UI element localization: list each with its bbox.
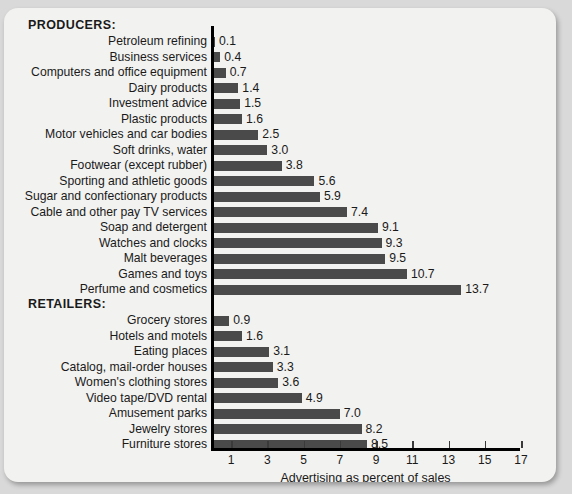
x-axis-tick (304, 441, 306, 448)
bar-value-label: 7.4 (351, 205, 368, 221)
bar-value-label: 9.1 (382, 220, 399, 236)
bar-value-label: 3.3 (277, 360, 294, 376)
bar (213, 269, 407, 279)
bar-value-label: 8.2 (366, 422, 383, 438)
bar-value-label: 7.0 (344, 406, 361, 422)
bar-row-label: Investment advice (109, 96, 207, 112)
bar-row-label: Perfume and cosmetics (80, 282, 207, 298)
x-axis-tick-label: 9 (373, 453, 380, 467)
bar-row-label: Plastic products (121, 112, 207, 128)
bar (213, 254, 385, 264)
bar-row-label: Video tape/DVD rental (86, 391, 207, 407)
bar-value-label: 13.7 (465, 282, 489, 298)
bar-row-label: Footwear (except rubber) (70, 158, 207, 174)
bar (213, 99, 240, 109)
bar-row-label: Sugar and confectionary products (25, 189, 207, 205)
x-axis-tick-label: 13 (442, 453, 455, 467)
bar-row: Soft drinks, water3.0 (4, 143, 556, 159)
bar (213, 316, 229, 326)
bar-row: Motor vehicles and car bodies2.5 (4, 127, 556, 143)
bar-row-label: Dairy products (128, 81, 207, 97)
bar-row-label: Catalog, mail-order houses (61, 360, 207, 376)
bar-row-label: Hotels and motels (109, 329, 207, 345)
bar (213, 192, 320, 202)
bar-row: Cable and other pay TV services7.4 (4, 205, 556, 221)
x-axis-tick-label: 17 (514, 453, 527, 467)
bar-row-label: Malt beverages (124, 251, 207, 267)
y-axis-line (211, 26, 214, 451)
bar-row: Games and toys10.7 (4, 267, 556, 283)
bar-row: Plastic products1.6 (4, 112, 556, 128)
bar-row-label: Grocery stores (127, 313, 207, 329)
x-axis-line (211, 448, 520, 451)
bar-row: Video tape/DVD rental4.9 (4, 391, 556, 407)
bar-value-label: 10.7 (411, 267, 435, 283)
bar-value-label: 3.6 (282, 375, 299, 391)
bar-row-label: Amusement parks (109, 406, 207, 422)
x-axis-tick (449, 441, 451, 448)
bar-row-label: Soft drinks, water (113, 143, 207, 159)
bar-row: Petroleum refining0.1 (4, 34, 556, 50)
bar-row-label: Business services (109, 50, 207, 66)
bar (213, 223, 378, 233)
bar (213, 331, 242, 341)
bar (213, 68, 226, 78)
bar-row: Computers and office equipment0.7 (4, 65, 556, 81)
bar-row-label: Games and toys (118, 267, 207, 283)
x-axis-tick (340, 441, 342, 448)
bar (213, 130, 258, 140)
bar-row-label: Furniture stores (122, 437, 207, 453)
x-axis-tick (231, 441, 233, 448)
bar (213, 207, 347, 217)
bar-row: Malt beverages9.5 (4, 251, 556, 267)
chart-card: PRODUCERS: RETAILERS: Petroleum refining… (4, 8, 556, 482)
bar (213, 362, 273, 372)
bar-row: Investment advice1.5 (4, 96, 556, 112)
bar-row-label: Soap and detergent (100, 220, 207, 236)
bar (213, 409, 340, 419)
bar-value-label: 3.0 (271, 143, 288, 159)
bar-value-label: 0.9 (233, 313, 250, 329)
bar-value-label: 1.4 (242, 81, 259, 97)
bar-row-label: Eating places (134, 344, 207, 360)
bar-row: Grocery stores0.9 (4, 313, 556, 329)
section-header-producers: PRODUCERS: (28, 18, 116, 32)
bar-value-label: 9.3 (386, 236, 403, 252)
bar-row-label: Petroleum refining (108, 34, 207, 50)
bar-value-label: 0.7 (230, 65, 247, 81)
bar-row-label: Women's clothing stores (75, 375, 207, 391)
bar-value-label: 9.5 (389, 251, 406, 267)
x-axis-tick-label: 3 (264, 453, 271, 467)
bar (213, 347, 269, 357)
bar-row: Watches and clocks9.3 (4, 236, 556, 252)
x-axis-tick (485, 441, 487, 448)
bar-row-label: Watches and clocks (99, 236, 207, 252)
bar-row: Footwear (except rubber)3.8 (4, 158, 556, 174)
bar-row: Hotels and motels1.6 (4, 329, 556, 345)
bar-value-label: 4.9 (306, 391, 323, 407)
bar-row: Sugar and confectionary products5.9 (4, 189, 556, 205)
bar-row: Business services0.4 (4, 50, 556, 66)
bar-value-label: 3.8 (286, 158, 303, 174)
x-axis-tick-label: 15 (478, 453, 491, 467)
x-axis-title: Advertising as percent of sales (211, 471, 520, 482)
bar (213, 52, 220, 62)
bar-row: Eating places3.1 (4, 344, 556, 360)
bar-value-label: 5.9 (324, 189, 341, 205)
x-axis-tick (376, 441, 378, 448)
bar (213, 285, 461, 295)
bar (213, 176, 314, 186)
bar (213, 161, 282, 171)
bar-value-label: 3.1 (273, 344, 290, 360)
bar-value-label: 1.5 (244, 96, 261, 112)
bar-row: Soap and detergent9.1 (4, 220, 556, 236)
bar-value-label: 0.1 (219, 34, 236, 50)
bar-value-label: 1.6 (246, 112, 263, 128)
x-axis-tick-label: 11 (406, 453, 418, 467)
section-header-retailers: RETAILERS: (28, 297, 106, 311)
x-axis-tick (412, 441, 414, 448)
bar-row-label: Sporting and athletic goods (59, 174, 207, 190)
bar-value-label: 2.5 (262, 127, 279, 143)
bar-row: Dairy products1.4 (4, 81, 556, 97)
bar-row: Catalog, mail-order houses3.3 (4, 360, 556, 376)
